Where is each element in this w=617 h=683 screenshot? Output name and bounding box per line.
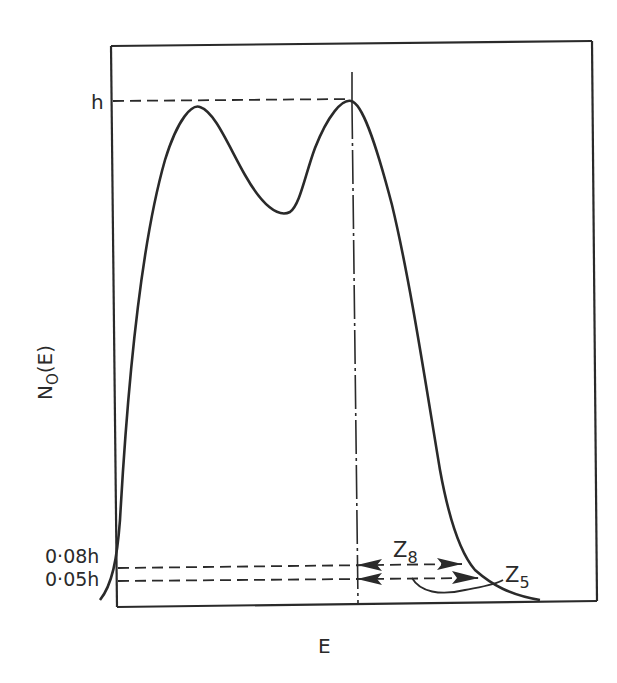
y-axis-label: NO(E) [33, 345, 62, 400]
h-reference-line [113, 99, 350, 101]
z8-label: Z8 [393, 538, 418, 567]
y-tick-0.08h: 0·08h [45, 545, 99, 567]
y-tick-0.05h: 0·05h [45, 568, 99, 590]
distribution-curve [100, 101, 540, 600]
distribution-diagram: h 0·08h 0·05h NO(E) E Z8 Z5 [0, 0, 617, 683]
x-axis-label: E [318, 634, 331, 658]
z5-right-arrowhead [452, 571, 479, 584]
svg-text:NO(E): NO(E) [33, 345, 62, 400]
z8-right-arrowhead [437, 558, 462, 570]
y-tick-h: h [91, 90, 104, 114]
z5-label: Z5 [505, 563, 530, 592]
h005-reference-line [118, 578, 478, 581]
peak-vertical-dashdot-line [352, 105, 358, 603]
